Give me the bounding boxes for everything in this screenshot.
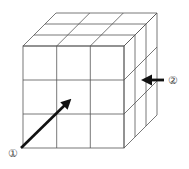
arrow-1-label: ① [8, 147, 18, 160]
arrow-2-label: ② [168, 74, 178, 87]
cube-diagram: ① ② [0, 0, 189, 169]
arrow-1 [21, 102, 68, 148]
top-face [23, 13, 157, 46]
